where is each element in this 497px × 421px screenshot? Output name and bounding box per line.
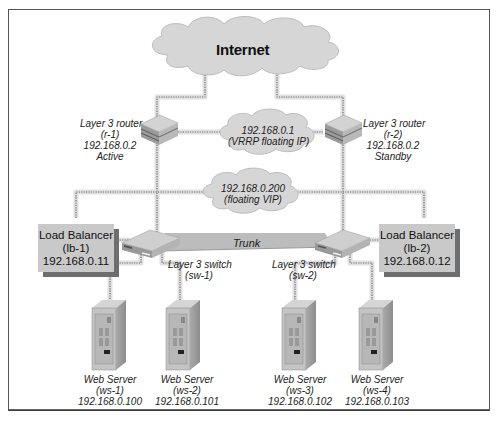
router-r1 xyxy=(141,115,178,145)
sw1-type: Layer 3 switch xyxy=(168,259,230,270)
ws1-id: (ws-1) xyxy=(78,385,142,396)
sw2-id: (sw-2) xyxy=(272,270,334,281)
vip-ip: 192.168.0.200 xyxy=(211,183,295,194)
router-r2-id: (r-2) xyxy=(363,129,423,140)
web-server-ws1 xyxy=(92,300,126,370)
ws2-id: (ws-2) xyxy=(155,385,219,396)
switch-sw1-label: Layer 3 switch (sw-1) xyxy=(168,259,230,281)
internet-label: Internet xyxy=(216,41,269,58)
web-server-ws3-label: Web Server (ws-3) 192.168.0.102 xyxy=(268,374,332,407)
vip-note: (floating VIP) xyxy=(211,194,295,205)
ws3-id: (ws-3) xyxy=(268,385,332,396)
router-r2 xyxy=(325,115,362,145)
ws3-type: Web Server xyxy=(268,374,332,385)
router-r2-ip: 192.168.0.2 xyxy=(363,140,423,151)
lb2-ip: 192.168.0.12 xyxy=(379,255,455,268)
trunk-label: Trunk xyxy=(233,237,260,249)
web-server-ws4 xyxy=(359,300,393,370)
switch-sw2-label: Layer 3 switch (sw-2) xyxy=(272,259,334,281)
web-server-ws4-label: Web Server (ws-4) 192.168.0.103 xyxy=(345,374,409,407)
ws3-ip: 192.168.0.102 xyxy=(268,396,332,407)
load-balancer-lb2: Load Balancer (lb-2) 192.168.0.12 xyxy=(379,224,455,272)
web-server-ws2 xyxy=(166,300,200,370)
ws2-type: Web Server xyxy=(155,374,219,385)
router-r2-label: Layer 3 router (r-2) 192.168.0.2 Standby xyxy=(363,118,423,162)
web-server-ws1-label: Web Server (ws-1) 192.168.0.100 xyxy=(78,374,142,407)
router-r2-type: Layer 3 router xyxy=(363,118,423,129)
ws4-ip: 192.168.0.103 xyxy=(345,396,409,407)
sw1-id: (sw-1) xyxy=(168,270,230,281)
ws2-ip: 192.168.0.101 xyxy=(155,396,219,407)
lb2-id: (lb-2) xyxy=(379,242,455,255)
vrrp-ip: 192.168.0.1 xyxy=(228,125,308,136)
lb1-ip: 192.168.0.11 xyxy=(38,255,114,268)
web-server-ws2-label: Web Server (ws-2) 192.168.0.101 xyxy=(155,374,219,407)
web-server-ws3 xyxy=(282,300,316,370)
lb1-type: Load Balancer xyxy=(38,229,114,242)
router-r2-state: Standby xyxy=(363,151,423,162)
ws4-type: Web Server xyxy=(345,374,409,385)
network-diagram xyxy=(0,0,497,421)
router-r1-ip: 192.168.0.2 xyxy=(80,140,140,151)
load-balancer-lb1: Load Balancer (lb-1) 192.168.0.11 xyxy=(38,224,114,272)
ws4-id: (ws-4) xyxy=(345,385,409,396)
vrrp-note: (VRRP floating IP) xyxy=(228,136,308,147)
vip-cloud-label: 192.168.0.200 (floating VIP) xyxy=(211,183,295,205)
lb2-type: Load Balancer xyxy=(379,229,455,242)
vrrp-cloud-label: 192.168.0.1 (VRRP floating IP) xyxy=(228,125,308,147)
lb1-id: (lb-1) xyxy=(38,242,114,255)
router-r1-id: (r-1) xyxy=(80,129,140,140)
ws1-type: Web Server xyxy=(78,374,142,385)
router-r1-type: Layer 3 router xyxy=(80,118,140,129)
router-r1-label: Layer 3 router (r-1) 192.168.0.2 Active xyxy=(80,118,140,162)
ws1-ip: 192.168.0.100 xyxy=(78,396,142,407)
router-r1-state: Active xyxy=(80,151,140,162)
sw2-type: Layer 3 switch xyxy=(272,259,334,270)
